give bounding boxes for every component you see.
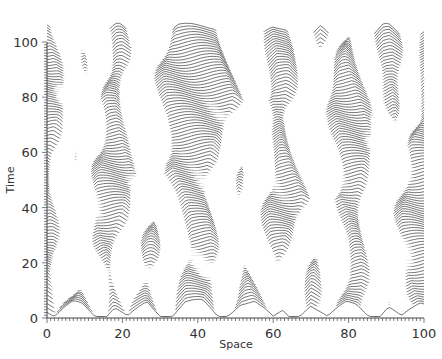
x-tick-label: 60: [265, 326, 282, 341]
y-tick-label: 40: [21, 201, 38, 216]
x-tick-label: 80: [340, 326, 357, 341]
time-profile-lines: [47, 23, 424, 316]
waterfall-chart: 020406080100 020406080100 Space Time: [0, 0, 442, 359]
x-tick-label: 40: [190, 326, 207, 341]
y-ticks: 020406080100: [13, 35, 47, 326]
y-tick-label: 20: [21, 256, 38, 271]
x-axis-title: Space: [219, 338, 253, 351]
y-tick-label: 100: [13, 35, 38, 50]
y-tick-label: 60: [21, 145, 38, 160]
y-tick-label: 80: [21, 90, 38, 105]
x-tick-label: 100: [412, 326, 437, 341]
y-tick-label: 0: [30, 311, 38, 326]
x-tick-label: 0: [43, 326, 51, 341]
x-tick-label: 20: [114, 326, 131, 341]
y-axis-title: Time: [4, 166, 17, 194]
